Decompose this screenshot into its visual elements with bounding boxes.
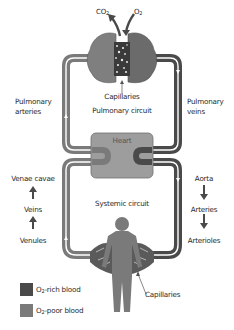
lungs-icon — [87, 33, 157, 83]
systemic-capillaries-label: Capillaries — [145, 290, 180, 299]
pulmonary-circuit-label: Pulmonary circuit — [88, 106, 156, 115]
chain-right-2: Arterioles — [182, 236, 226, 245]
legend-swatch-o2-rich — [20, 283, 33, 296]
pulmonary-arteries-label-2: arteries — [15, 107, 41, 116]
legend-label-o2-rich: O2-rich blood — [36, 285, 81, 294]
circulation-diagram — [0, 0, 234, 330]
pulmonary-capillaries-label: Capillaries — [100, 92, 144, 101]
gas-exchange-arrows — [108, 14, 134, 36]
chain-right-0: Aorta — [184, 174, 224, 183]
pulmonary-arteries-label-1: Pulmonary — [15, 97, 52, 106]
chain-right-1: Arteries — [184, 205, 224, 214]
legend-label-o2-poor: O2-poor blood — [36, 306, 83, 315]
pulmonary-veins-label-2: veins — [187, 107, 205, 116]
chain-left-1: Veins — [6, 205, 60, 214]
pulmonary-veins-label-1: Pulmonary — [187, 97, 224, 106]
o2-label: O2 — [134, 8, 142, 17]
co2-label: CO2 — [96, 8, 109, 17]
chain-left-0: Venae cavae — [6, 174, 60, 183]
legend-swatch-o2-poor — [20, 304, 33, 317]
systemic-circuit-label: Systemic circuit — [90, 199, 154, 208]
chain-left-2: Venules — [6, 236, 60, 245]
heart-label: Heart — [101, 136, 143, 145]
